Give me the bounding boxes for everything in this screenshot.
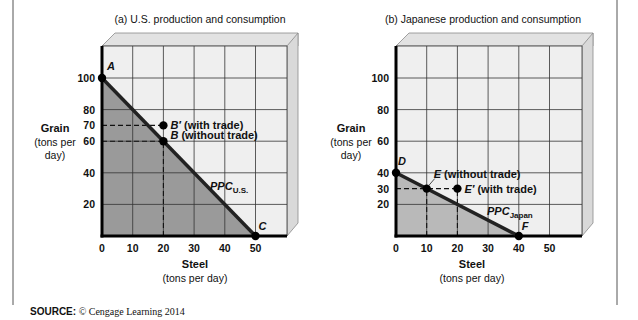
y-axis-subtitle: day) [341, 149, 361, 161]
source-note: SOURCE: © Cengage Learning 2014 [30, 306, 185, 317]
chart-title: (a) U.S. production and consumption [114, 13, 285, 25]
point-label: A [106, 60, 115, 72]
y-axis-title: Grain [337, 122, 366, 134]
box-side-face [287, 33, 298, 236]
box-top-face [396, 33, 593, 46]
y-axis-subtitle: (tons per [330, 136, 372, 148]
source-label: SOURCE: [30, 306, 76, 317]
y-tick-label: 20 [83, 198, 95, 210]
source-text: © Cengage Learning 2014 [79, 306, 185, 317]
y-tick-label: 70 [83, 119, 95, 131]
ppc-figure: 010203040502040607080100(a) U.S. product… [0, 0, 638, 320]
x-tick-label: 30 [188, 242, 200, 254]
point-f [515, 232, 523, 240]
x-axis-title: Steel [182, 258, 208, 270]
point-c [251, 232, 259, 240]
point-d [392, 169, 400, 177]
x-tick-label: 20 [158, 242, 170, 254]
box-side-face [582, 33, 593, 236]
x-tick-label: 30 [482, 242, 494, 254]
point-label: C [259, 220, 268, 232]
x-tick-label: 0 [393, 242, 399, 254]
x-tick-label: 40 [513, 242, 525, 254]
y-tick-label: 40 [377, 167, 389, 179]
chart-panel-us: 010203040502040607080100(a) U.S. product… [34, 13, 298, 284]
y-tick-label: 80 [377, 104, 389, 116]
y-tick-label: 60 [83, 135, 95, 147]
x-axis-title: Steel [459, 258, 485, 270]
y-tick-label: 60 [377, 135, 389, 147]
y-tick-label: 40 [83, 167, 95, 179]
x-tick-label: 20 [452, 242, 464, 254]
y-tick-label: 20 [377, 198, 389, 210]
x-tick-label: 50 [544, 242, 556, 254]
point-label: B (without trade) [170, 129, 258, 141]
point-e [423, 184, 431, 192]
x-tick-label: 0 [99, 242, 105, 254]
y-axis-title: Grain [41, 122, 70, 134]
x-axis-subtitle: (tons per day) [163, 272, 228, 284]
y-tick-label: 100 [77, 72, 95, 84]
x-tick-label: 10 [421, 242, 433, 254]
chart-title: (b) Japanese production and consumption [385, 13, 581, 25]
point-label: E′ (with trade) [464, 183, 537, 195]
x-axis-subtitle: (tons per day) [440, 272, 505, 284]
point-b-prime [159, 121, 167, 129]
point-label: E (without trade) [434, 168, 521, 180]
x-tick-label: 50 [250, 242, 262, 254]
point-label: F [522, 220, 529, 232]
point-a [98, 74, 106, 82]
y-tick-label: 80 [83, 104, 95, 116]
y-axis-subtitle: (tons per [34, 136, 76, 148]
y-tick-label: 100 [371, 72, 389, 84]
x-tick-label: 40 [219, 242, 231, 254]
chart-panel-japan: 010203040502030406080100(b) Japanese pro… [330, 13, 593, 284]
figure: 010203040502040607080100(a) U.S. product… [0, 0, 638, 320]
y-tick-label: 30 [377, 183, 389, 195]
x-tick-label: 10 [127, 242, 139, 254]
point-label: D [398, 155, 406, 167]
y-axis-subtitle: day) [45, 149, 65, 161]
point-b [159, 137, 167, 145]
point-e-prime [453, 184, 461, 192]
box-top-face [102, 33, 298, 46]
